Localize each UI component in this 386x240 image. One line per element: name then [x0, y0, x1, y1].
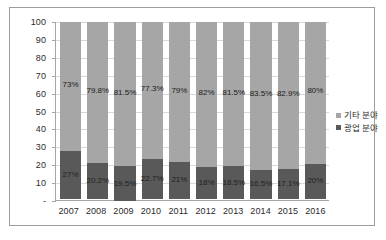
- bar-stack: 79.8%20.2%: [87, 22, 108, 199]
- bar-column[interactable]: 82%18%: [193, 22, 220, 199]
- bar-column[interactable]: 83.5%16.5%: [247, 22, 274, 199]
- bar-segment-mining-sector[interactable]: 22.7%: [142, 159, 163, 199]
- bar-value-label: 16.5%: [250, 180, 273, 188]
- y-axis-label: 20: [36, 160, 46, 170]
- bar-segment-mining-sector[interactable]: 17.1%: [278, 169, 299, 199]
- bar-segment-mining-sector[interactable]: 20.2%: [87, 163, 108, 199]
- y-axis-label: 30: [36, 142, 46, 152]
- bar-stack: 82.9%17.1%: [278, 22, 299, 199]
- bar-value-label: 73%: [63, 81, 79, 89]
- y-axis-tick: [52, 183, 56, 184]
- bar-segment-other-sector[interactable]: 80%: [305, 22, 326, 164]
- bar-segment-mining-sector[interactable]: 18.5%: [223, 166, 244, 199]
- bar-segment-other-sector[interactable]: 81.5%: [223, 22, 244, 166]
- bar-segment-other-sector[interactable]: 82%: [196, 22, 217, 167]
- x-axis-label: 2008: [82, 204, 109, 222]
- y-axis-label: -: [43, 196, 46, 206]
- legend-item[interactable]: 광업 분야: [336, 124, 386, 133]
- y-axis-tick: [52, 40, 56, 41]
- x-axis: 2007200820092010201120122013201420152016: [55, 204, 329, 222]
- legend-label: 기타 분야: [344, 111, 378, 120]
- legend-swatch-icon: [336, 113, 341, 118]
- y-axis-tick: [52, 129, 56, 130]
- bar-segment-mining-sector[interactable]: 21%: [169, 162, 190, 199]
- bar-segment-other-sector[interactable]: 73%: [60, 22, 81, 151]
- bar-segment-other-sector[interactable]: 83.5%: [250, 22, 271, 170]
- bar-segment-other-sector[interactable]: 82.9%: [278, 22, 299, 169]
- bar-segment-other-sector[interactable]: 77.3%: [142, 22, 163, 159]
- y-axis-tick: [52, 58, 56, 59]
- bar-value-label: 82.9%: [277, 90, 300, 98]
- x-axis-label: 2014: [247, 204, 274, 222]
- bar-column[interactable]: 77.3%22.7%: [139, 22, 166, 199]
- bar-segment-mining-sector[interactable]: 27%: [60, 151, 81, 199]
- bar-stack: 81.5%18.5%: [223, 22, 244, 199]
- chart-legend: 기타 분야광업 분야: [336, 111, 386, 136]
- legend-label: 광업 분야: [344, 124, 378, 133]
- legend-item[interactable]: 기타 분야: [336, 111, 386, 120]
- x-axis-label: 2016: [302, 204, 329, 222]
- bar-value-label: 79%: [171, 87, 187, 95]
- bar-stack: 81.5%19.5%: [114, 22, 135, 199]
- bar-value-label: 19.5%: [114, 180, 137, 188]
- bar-value-label: 20%: [307, 177, 323, 185]
- bar-value-label: 21%: [171, 176, 187, 184]
- y-axis-tick: [52, 147, 56, 148]
- x-axis-label: 2013: [219, 204, 246, 222]
- y-axis-label: 80: [36, 53, 46, 63]
- plot-area: 73%27%79.8%20.2%81.5%19.5%77.3%22.7%79%2…: [55, 22, 329, 201]
- bar-value-label: 18%: [199, 179, 215, 187]
- bar-column[interactable]: 79.8%20.2%: [84, 22, 111, 199]
- bar-value-label: 22.7%: [141, 175, 164, 183]
- bar-value-label: 27%: [63, 171, 79, 179]
- y-axis: 100908070605040302010-: [10, 22, 52, 201]
- y-axis-label: 100: [31, 17, 46, 27]
- bar-value-label: 80%: [307, 87, 323, 95]
- y-axis-label: 50: [36, 107, 46, 117]
- bar-stack: 83.5%16.5%: [250, 22, 271, 199]
- bar-column[interactable]: 80%20%: [302, 22, 329, 199]
- y-axis-tick: [52, 22, 56, 23]
- bar-stack: 77.3%22.7%: [142, 22, 163, 199]
- bar-segment-mining-sector[interactable]: 16.5%: [250, 170, 271, 199]
- bar-segment-other-sector[interactable]: 79.8%: [87, 22, 108, 163]
- bar-value-label: 82%: [199, 89, 215, 97]
- bar-segment-mining-sector[interactable]: 19.5%: [114, 166, 135, 201]
- y-axis-tick: [52, 94, 56, 95]
- y-axis-label: 90: [36, 35, 46, 45]
- bar-stack: 82%18%: [196, 22, 217, 199]
- x-axis-label: 2010: [137, 204, 164, 222]
- bar-value-label: 20.2%: [86, 177, 109, 185]
- bar-segment-mining-sector[interactable]: 20%: [305, 164, 326, 199]
- bar-stack: 79%21%: [169, 22, 190, 199]
- y-axis-tick: [52, 112, 56, 113]
- bar-series-group: 73%27%79.8%20.2%81.5%19.5%77.3%22.7%79%2…: [57, 22, 329, 199]
- y-axis-label: 60: [36, 89, 46, 99]
- bar-value-label: 81.5%: [114, 89, 137, 97]
- y-axis-tick: [52, 201, 56, 202]
- chart-frame: 100908070605040302010- 73%27%79.8%20.2%8…: [9, 7, 375, 226]
- chart-canvas: 100908070605040302010- 73%27%79.8%20.2%8…: [10, 8, 374, 225]
- bar-column[interactable]: 73%27%: [57, 22, 84, 199]
- bar-value-label: 18.5%: [222, 179, 245, 187]
- bar-value-label: 79.8%: [86, 87, 109, 95]
- bar-column[interactable]: 82.9%17.1%: [275, 22, 302, 199]
- bar-value-label: 77.3%: [141, 85, 164, 93]
- y-axis-label: 40: [36, 124, 46, 134]
- x-axis-label: 2012: [192, 204, 219, 222]
- x-axis-label: 2007: [55, 204, 82, 222]
- bar-column[interactable]: 81.5%18.5%: [220, 22, 247, 199]
- bar-segment-other-sector[interactable]: 81.5%: [114, 22, 135, 166]
- legend-swatch-icon: [336, 125, 341, 130]
- bar-value-label: 83.5%: [250, 90, 273, 98]
- bar-value-label: 81.5%: [222, 89, 245, 97]
- bar-value-label: 17.1%: [277, 180, 300, 188]
- bar-column[interactable]: 81.5%19.5%: [111, 22, 138, 199]
- bar-column[interactable]: 79%21%: [166, 22, 193, 199]
- bar-stack: 73%27%: [60, 22, 81, 199]
- y-axis-tick: [52, 165, 56, 166]
- bar-segment-other-sector[interactable]: 79%: [169, 22, 190, 162]
- bar-segment-mining-sector[interactable]: 18%: [196, 167, 217, 199]
- bar-stack: 80%20%: [305, 22, 326, 199]
- y-axis-label: 10: [36, 178, 46, 188]
